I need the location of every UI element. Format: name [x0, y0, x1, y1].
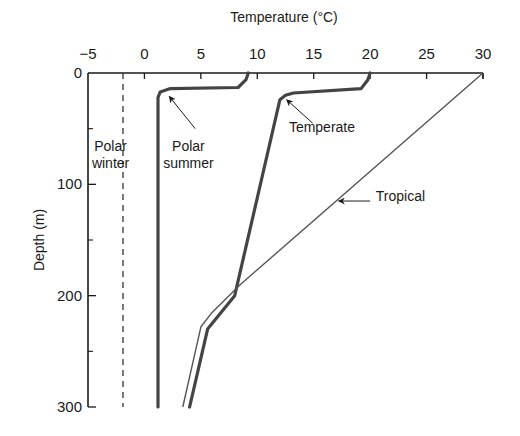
annotation-polar-winter: Polarwinter — [91, 138, 130, 171]
annotation-polar-summer: Polarsummer — [163, 138, 214, 171]
axes: −50510152025300100200300 — [57, 45, 491, 415]
annotation-line: Tropical — [376, 188, 425, 204]
x-axis-title: Temperature (°C) — [230, 9, 338, 25]
annotation-line: Polar — [94, 138, 127, 154]
x-tick-label: 0 — [140, 45, 148, 62]
annotation-tropical: Tropical — [376, 188, 425, 204]
annotation-temperate: Temperate — [289, 119, 355, 135]
annotation-line: Polar — [172, 138, 205, 154]
y-axis-title: Depth (m) — [31, 209, 47, 271]
x-tick-label: 10 — [249, 45, 266, 62]
y-tick-label: 300 — [57, 398, 82, 415]
annotation-arrow-polar-summer — [169, 96, 195, 128]
y-tick-label: 200 — [57, 287, 82, 304]
series-polar-summer — [158, 73, 248, 407]
y-tick-label: 0 — [74, 64, 82, 81]
x-tick-label: 20 — [362, 45, 379, 62]
x-tick-label: 15 — [305, 45, 322, 62]
x-tick-label: 25 — [418, 45, 435, 62]
annotation-line: winter — [91, 155, 130, 171]
x-tick-label: −5 — [79, 45, 96, 62]
y-tick-label: 100 — [57, 175, 82, 192]
x-tick-label: 5 — [197, 45, 205, 62]
x-tick-label: 30 — [475, 45, 492, 62]
annotation-line: Temperate — [289, 119, 355, 135]
depth-temperature-chart: Temperature (°C) Depth (m) −505101520253… — [0, 0, 520, 436]
annotation-line: summer — [163, 155, 214, 171]
